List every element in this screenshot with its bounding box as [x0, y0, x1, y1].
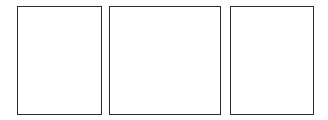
- empty-panel-right: [230, 6, 314, 115]
- empty-panel-left: [17, 6, 102, 115]
- empty-panel-center: [109, 6, 221, 115]
